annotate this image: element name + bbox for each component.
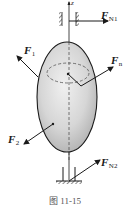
force-fn2-arrow [69, 160, 100, 181]
z-axis-label: z [71, 0, 74, 7]
force-subscript: N1 [109, 15, 118, 23]
force-symbol: F [24, 44, 31, 56]
force-subscript: n [119, 60, 123, 68]
force-symbol: F [111, 54, 118, 66]
force-fn1-label: FN1 [101, 10, 117, 23]
force-f1-arrow [17, 56, 38, 77]
force-f1-label: F1 [24, 45, 35, 58]
free-body-diagram [0, 0, 130, 208]
ellipsoid-body [37, 42, 97, 152]
force-symbol: F [8, 133, 15, 145]
force-symbol: F [101, 9, 108, 21]
force-fn2-label: FN2 [101, 157, 117, 170]
force-fn-label: Fn [111, 55, 122, 68]
force-f2-label: F2 [8, 134, 19, 147]
figure-caption: 图 11-15 [0, 194, 130, 207]
force-subscript: 2 [16, 139, 20, 147]
diagram-figure: z FN1 F1 Fn F2 FN2 图 11-15 [0, 0, 130, 208]
force-subscript: N2 [109, 162, 118, 170]
force-subscript: 1 [32, 50, 36, 58]
force-symbol: F [101, 156, 108, 168]
